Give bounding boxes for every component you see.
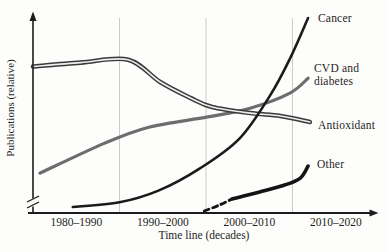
- x-axis-arrow-icon: [370, 209, 379, 216]
- series-line-cancer: [73, 18, 308, 207]
- series-label-antioxidant: Antioxidant: [318, 119, 375, 132]
- series-label-other: Other: [317, 158, 344, 171]
- series-line-antioxidant: [33, 59, 310, 122]
- series-line-cvd-and-diabetes: [40, 78, 308, 173]
- series-line-other: [232, 166, 308, 199]
- x-tick-label-2010-2020: 2010–2020: [310, 216, 362, 228]
- series-line-other-dashed: [204, 199, 232, 211]
- series-lines: [33, 18, 310, 211]
- publications-trend-chart: Cancer CVD and diabetes Antioxidant Othe…: [0, 0, 390, 252]
- axes: [27, 12, 379, 217]
- series-label-cancer: Cancer: [318, 12, 352, 25]
- x-tick-label-1980-1990: 1980–1990: [50, 216, 102, 228]
- x-axis-title: Time line (decades): [159, 229, 250, 241]
- y-axis-title: Publications (relative): [4, 100, 16, 116]
- y-axis-arrow-icon: [30, 12, 37, 22]
- series-label-cvd-and-diabetes: CVD and diabetes: [314, 62, 376, 87]
- x-tick-label-1990-2000: 1990–2000: [137, 216, 189, 228]
- x-tick-label-2000-2010: 2000–2010: [223, 216, 275, 228]
